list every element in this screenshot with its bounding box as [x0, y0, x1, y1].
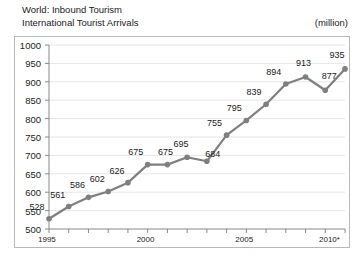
chart-title: World: Inbound Tourism International Tou…	[22, 4, 139, 29]
y-axis-tick-label: 600	[11, 187, 41, 198]
data-point-label: 675	[158, 147, 173, 157]
data-point-marker	[66, 204, 72, 210]
data-point-marker	[244, 118, 250, 124]
data-point-label: 695	[174, 139, 189, 149]
data-point-label: 935	[329, 50, 344, 60]
y-axis-tick-label: 700	[11, 150, 41, 161]
data-point-marker	[322, 87, 328, 93]
data-point-label: 913	[296, 58, 311, 68]
chart-plot-box: 5005506006507007508008509009501000199520…	[14, 36, 350, 248]
chart-figure: World: Inbound Tourism International Tou…	[0, 0, 364, 258]
data-point-label: 675	[128, 147, 143, 157]
data-point-label: 877	[322, 71, 337, 81]
chart-unit-label: (million)	[315, 17, 348, 30]
data-point-marker	[46, 216, 52, 222]
data-point-label: 755	[207, 118, 222, 128]
data-point-label: 795	[227, 103, 242, 113]
data-point-marker	[224, 132, 230, 138]
data-point-marker	[165, 162, 171, 168]
y-axis-tick-label: 750	[11, 132, 41, 143]
data-point-marker	[145, 162, 151, 168]
y-axis-tick-label: 950	[11, 58, 41, 69]
data-point-label: 839	[247, 87, 262, 97]
x-axis-tick-label: 2000	[137, 235, 155, 244]
data-point-marker	[204, 158, 210, 164]
chart-title-line-1: World: Inbound Tourism	[22, 4, 139, 17]
x-axis-tick-label: 2005	[235, 235, 253, 244]
data-point-marker	[283, 81, 289, 87]
data-point-marker	[263, 101, 269, 107]
y-axis-tick-label: 850	[11, 95, 41, 106]
data-point-label: 561	[50, 190, 65, 200]
y-axis-tick-label: 800	[11, 113, 41, 124]
y-axis-tick-label: 900	[11, 76, 41, 87]
x-axis-tick-label: 1995	[38, 235, 56, 244]
data-point-marker	[342, 66, 348, 72]
series-line	[49, 69, 345, 219]
data-point-label: 626	[109, 166, 124, 176]
y-axis-tick-label: 650	[11, 168, 41, 179]
chart-title-line-2: International Tourist Arrivals	[22, 17, 139, 30]
data-point-label: 602	[90, 174, 105, 184]
x-axis-tick-label: 2010*	[319, 235, 340, 244]
data-point-label: 894	[266, 67, 281, 77]
data-point-marker	[184, 154, 190, 160]
data-point-label: 684	[205, 149, 220, 159]
y-axis-tick-label: 1000	[11, 40, 41, 51]
data-point-marker	[125, 180, 131, 186]
y-axis-tick-label: 500	[11, 224, 41, 235]
data-point-marker	[303, 74, 309, 80]
data-point-marker	[105, 189, 111, 195]
data-point-label: 528	[29, 202, 44, 212]
data-point-marker	[86, 195, 92, 201]
data-point-label: 586	[70, 180, 85, 190]
